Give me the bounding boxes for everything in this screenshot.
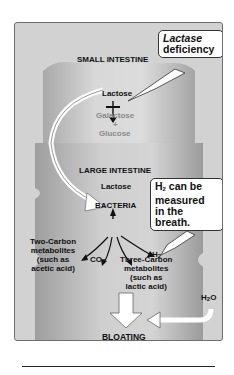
callout-line1: can be: [166, 180, 202, 192]
line: metabolites: [31, 246, 75, 255]
sub: 2: [158, 253, 161, 259]
o: O: [210, 293, 216, 302]
diagram-frame: Lactase deficiency SMALL INTESTINE Lacto…: [14, 22, 223, 341]
callout-line3: in the breath.: [155, 205, 190, 228]
outcomes-list: BLOATING DIARRHEA DEHYDRATION: [93, 332, 155, 341]
line: Two-Carbon: [30, 237, 76, 246]
divider-rule: [22, 366, 215, 367]
h2-label: H2: [152, 250, 161, 261]
outcome-bloating: BLOATING: [102, 332, 146, 341]
co2-label: CO2: [90, 255, 105, 266]
lactose-small: Lactose: [102, 89, 132, 98]
line: (such as: [37, 255, 69, 264]
three-carbon-metabolites: Three-Carbon metabolites (such as lactic…: [120, 255, 172, 291]
callout-h: H: [155, 180, 163, 192]
two-carbon-metabolites: Two-Carbon metabolites (such as acetic a…: [30, 237, 76, 273]
line: metabolites: [124, 264, 168, 273]
lactose-large: Lactose: [101, 182, 131, 191]
bacteria-label: BACTERIA: [95, 201, 136, 210]
line: (such as: [130, 273, 162, 282]
line: acetic acid): [31, 264, 75, 273]
small-intestine-title: SMALL INTESTINE: [77, 55, 148, 64]
plus-sign: +: [113, 120, 118, 129]
h2-breath-callout: H2 can be measured in the breath.: [150, 178, 223, 231]
galactose-label: Galactose: [96, 111, 134, 120]
large-intestine-title: LARGE INTESTINE: [79, 166, 151, 175]
line: lactic acid): [126, 282, 167, 291]
line: Three-Carbon: [120, 255, 172, 264]
lactase-deficiency-callout: Lactase deficiency: [158, 30, 223, 58]
sub: 2: [102, 258, 105, 264]
co: CO: [90, 255, 102, 264]
glucose-label: Glucose: [99, 129, 131, 138]
callout-text: deficiency: [163, 43, 214, 55]
water-label: H2O: [201, 293, 216, 304]
